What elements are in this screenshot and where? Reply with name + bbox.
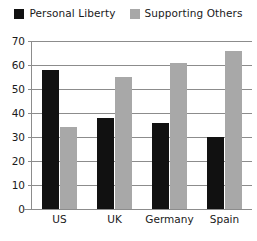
x-tick-label: US bbox=[52, 213, 66, 226]
x-axis-line bbox=[24, 209, 252, 210]
bar bbox=[42, 70, 59, 209]
y-tick-label: 40 bbox=[12, 108, 25, 119]
y-tick-label: 10 bbox=[12, 180, 25, 191]
y-tick-label: 60 bbox=[12, 60, 25, 71]
legend-item-personal-liberty: Personal Liberty bbox=[14, 8, 115, 19]
bar bbox=[170, 63, 187, 209]
bar-group bbox=[197, 41, 252, 209]
y-tick-label: 50 bbox=[12, 84, 25, 95]
bar-chart: Personal Liberty Supporting Others 01020… bbox=[0, 0, 257, 241]
bars-container bbox=[32, 41, 252, 209]
y-tick-label: 20 bbox=[12, 156, 25, 167]
legend-swatch-icon-supporting-others bbox=[130, 9, 140, 19]
plot-area: 010203040506070 USUKGermanySpain bbox=[0, 30, 257, 241]
x-tick-label: Germany bbox=[145, 213, 193, 226]
bar bbox=[115, 77, 132, 209]
bar-group bbox=[142, 41, 197, 209]
y-tick-label: 30 bbox=[12, 132, 25, 143]
legend-swatch-icon-personal-liberty bbox=[14, 9, 24, 19]
chart-legend: Personal Liberty Supporting Others bbox=[0, 8, 257, 19]
x-axis-tick-labels: USUKGermanySpain bbox=[32, 213, 252, 233]
bar bbox=[207, 137, 224, 209]
bar bbox=[97, 118, 114, 209]
bar bbox=[60, 127, 77, 209]
legend-label-supporting-others: Supporting Others bbox=[145, 8, 243, 19]
legend-label-personal-liberty: Personal Liberty bbox=[29, 8, 115, 19]
y-tick-label: 70 bbox=[12, 36, 25, 47]
legend-item-supporting-others: Supporting Others bbox=[130, 8, 243, 19]
x-tick-label: UK bbox=[107, 213, 122, 226]
x-tick-label: Spain bbox=[210, 213, 239, 226]
bar bbox=[225, 51, 242, 209]
bar-group bbox=[32, 41, 87, 209]
y-axis-tick-labels: 010203040506070 bbox=[0, 30, 28, 215]
bar-group bbox=[87, 41, 142, 209]
bar bbox=[152, 123, 169, 209]
